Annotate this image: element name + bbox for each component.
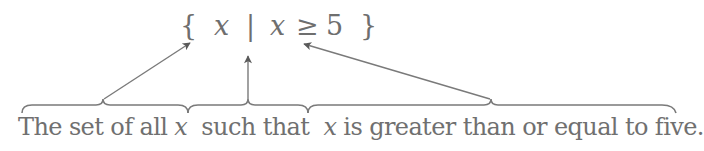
caption-condition-variable-x: x — [323, 113, 336, 141]
caption-variable-x: x — [174, 113, 187, 141]
brace-greater-or-equal-five — [308, 99, 676, 113]
arrow-to-condition — [304, 44, 490, 99]
caption-part-set-of-all: The set of all — [18, 113, 174, 141]
brace-set-of-all-x — [22, 99, 188, 113]
plain-english-caption: The set of all x such that x is greater … — [18, 113, 688, 141]
brace-such-that — [188, 99, 308, 113]
caption-part-greater-or-equal: is greater than or equal to five. — [336, 113, 704, 141]
caption-part-such-that: such that — [201, 113, 309, 141]
arrow-to-variable — [104, 43, 190, 99]
